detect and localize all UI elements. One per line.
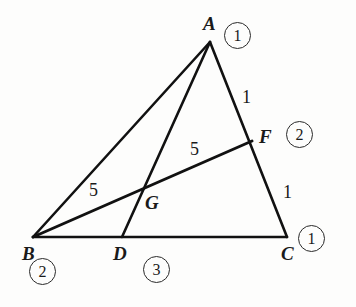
circled-number-a: 1 [224, 22, 251, 49]
circled-number-f-text: 2 [296, 126, 304, 144]
geometry-figure: A B C D F G 5 5 1 1 1 2 1 2 3 [0, 0, 356, 307]
point-label-c: C [281, 244, 294, 263]
length-label-gf: 5 [190, 140, 199, 158]
circled-number-b-text: 2 [39, 263, 47, 281]
point-label-f: F [259, 127, 272, 146]
geometry-canvas [0, 0, 356, 307]
length-label-af: 1 [242, 88, 251, 106]
circled-number-d: 3 [143, 256, 170, 283]
circled-number-c-text: 1 [308, 230, 316, 248]
segment-ac [210, 42, 287, 237]
point-label-g: G [145, 193, 159, 212]
circled-number-a-text: 1 [234, 27, 242, 45]
length-label-fc: 1 [283, 183, 292, 201]
length-label-bg: 5 [89, 181, 98, 199]
circled-number-b: 2 [29, 258, 56, 285]
point-label-b: B [22, 244, 35, 263]
segment-ab [33, 42, 210, 237]
segment-bf [33, 141, 252, 237]
circled-number-f: 2 [286, 121, 313, 148]
segments-group [33, 42, 287, 237]
point-label-d: D [113, 244, 127, 263]
circled-number-c: 1 [298, 225, 325, 252]
point-label-a: A [203, 14, 216, 33]
circled-number-d-text: 3 [153, 261, 161, 279]
